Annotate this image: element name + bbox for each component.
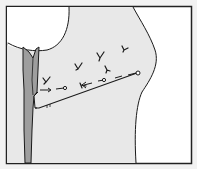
diagram-svg [0,0,197,169]
diagram-canvas [0,0,197,169]
circle-marker-3 [136,71,140,75]
circle-marker-1 [63,86,66,89]
circle-marker-2 [102,78,105,81]
